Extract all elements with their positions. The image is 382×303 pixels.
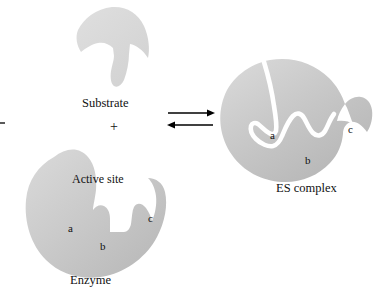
enzyme-substrate-diagram: Substrate + Active site a b c Enzyme a b… — [0, 0, 382, 303]
enzyme-site-b-label: b — [100, 241, 106, 252]
forward-arrow-icon — [168, 110, 215, 117]
complex-site-a-label: a — [270, 130, 275, 141]
reverse-arrow-icon — [167, 122, 213, 129]
diagram-canvas — [0, 0, 382, 303]
enzyme-site-c-label: c — [148, 213, 153, 224]
plus-sign-label: + — [110, 120, 118, 134]
es-complex-shape — [220, 59, 372, 182]
complex-site-c-label: c — [348, 124, 353, 135]
enzyme-site-a-label: a — [68, 223, 73, 234]
enzyme-label: Enzyme — [70, 274, 111, 287]
active-site-label: Active site — [72, 173, 124, 185]
substrate-shape — [77, 7, 149, 87]
substrate-label: Substrate — [82, 97, 129, 110]
equilibrium-arrows — [167, 110, 215, 129]
enzyme-shape — [26, 150, 166, 278]
es-complex-label: ES complex — [276, 182, 337, 195]
complex-site-b-label: b — [305, 155, 311, 166]
